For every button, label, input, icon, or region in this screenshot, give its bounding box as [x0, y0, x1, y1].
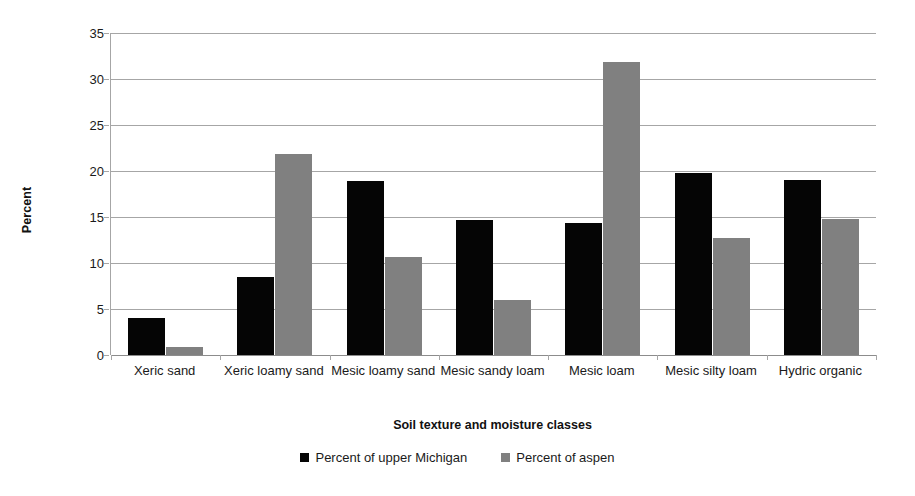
- y-tick-mark: [104, 171, 109, 172]
- y-tick-label: 25: [44, 119, 104, 132]
- bar: [237, 277, 274, 355]
- bar-group: [439, 33, 548, 355]
- bar: [822, 219, 859, 355]
- y-tick-mark: [104, 217, 109, 218]
- bar-group: [657, 33, 766, 355]
- x-tick-mark: [220, 355, 221, 360]
- y-tick-mark: [104, 33, 109, 34]
- x-tick-label: Xeric sand: [110, 362, 219, 380]
- x-tick-label: Xeric loamy sand: [219, 362, 328, 380]
- legend-label: Percent of aspen: [516, 450, 614, 465]
- x-tick-mark: [548, 355, 549, 360]
- y-tick-label: 15: [44, 211, 104, 224]
- bar: [347, 181, 384, 355]
- bar: [456, 220, 493, 355]
- x-axis-line: [111, 355, 876, 356]
- bar: [128, 318, 165, 355]
- y-axis-title: Percent: [20, 150, 34, 270]
- legend-item[interactable]: Percent of aspen: [501, 450, 614, 465]
- y-tick-mark: [104, 263, 109, 264]
- legend-swatch-icon: [300, 453, 309, 462]
- y-tick-label: 0: [44, 349, 104, 362]
- y-tick-label: 10: [44, 257, 104, 270]
- x-tick-label: Hydric organic: [766, 362, 875, 380]
- y-tick-mark: [104, 355, 109, 356]
- bar: [675, 173, 712, 355]
- x-axis-title: Soil texture and moisture classes: [110, 418, 875, 432]
- x-tick-mark: [876, 355, 877, 360]
- bar: [494, 300, 531, 355]
- bar-chart: Percent 05101520253035 Xeric sandXeric l…: [0, 0, 915, 496]
- x-tick-label: Mesic sandy loam: [438, 362, 547, 380]
- x-tick-mark: [111, 355, 112, 360]
- bar: [603, 62, 640, 355]
- bar: [385, 257, 422, 355]
- x-axis-tick-labels: Xeric sandXeric loamy sandMesic loamy sa…: [110, 362, 875, 410]
- y-tick-label: 30: [44, 73, 104, 86]
- bar: [713, 238, 750, 355]
- bar-group: [330, 33, 439, 355]
- y-tick-mark: [104, 125, 109, 126]
- x-tick-mark: [439, 355, 440, 360]
- x-tick-label: Mesic loam: [547, 362, 656, 380]
- y-tick-label: 35: [44, 27, 104, 40]
- legend-item[interactable]: Percent of upper Michigan: [300, 450, 467, 465]
- bar-group: [767, 33, 876, 355]
- chart-legend: Percent of upper MichiganPercent of aspe…: [0, 450, 915, 465]
- legend-label: Percent of upper Michigan: [315, 450, 467, 465]
- y-axis-ticks: 05101520253035: [38, 33, 104, 355]
- bar-group: [548, 33, 657, 355]
- x-tick-label: Mesic loamy sand: [329, 362, 438, 380]
- y-tick-mark: [104, 79, 109, 80]
- plot-area: [110, 33, 876, 355]
- bar: [565, 223, 602, 355]
- bar: [275, 154, 312, 355]
- bar-group: [220, 33, 329, 355]
- bar-group: [111, 33, 220, 355]
- x-tick-label: Mesic silty loam: [656, 362, 765, 380]
- legend-swatch-icon: [501, 453, 510, 462]
- bar: [784, 180, 821, 355]
- x-tick-mark: [330, 355, 331, 360]
- x-tick-mark: [657, 355, 658, 360]
- y-tick-mark: [104, 309, 109, 310]
- bar: [166, 347, 203, 355]
- y-tick-label: 20: [44, 165, 104, 178]
- x-tick-mark: [767, 355, 768, 360]
- y-tick-label: 5: [44, 303, 104, 316]
